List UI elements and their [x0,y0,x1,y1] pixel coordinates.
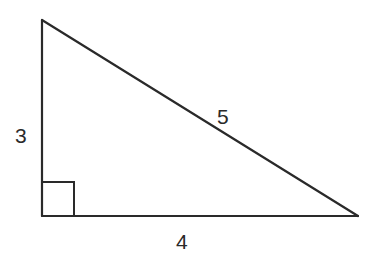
horizontal-leg-label: 4 [176,231,188,252]
hypotenuse-label: 5 [217,106,229,127]
vertical-leg-label: 3 [15,125,27,146]
right-triangle-diagram [0,0,379,264]
hypotenuse [42,20,358,216]
right-angle-marker [42,182,74,216]
